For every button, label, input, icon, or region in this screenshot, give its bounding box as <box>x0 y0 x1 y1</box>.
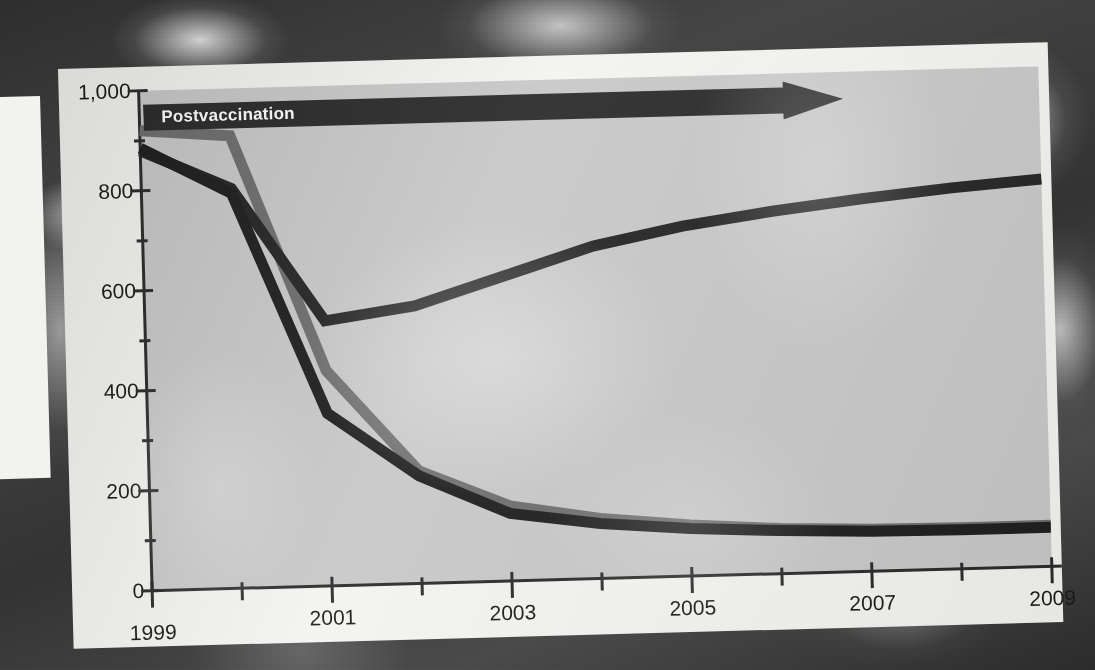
x-axis-tick-label: 2009 <box>1029 586 1076 611</box>
y-axis-major-tick <box>130 191 150 192</box>
x-axis-tick-label: 2007 <box>849 591 896 616</box>
x-axis-tick-label: 2001 <box>309 605 356 630</box>
postvaccination-label: Postvaccination <box>161 104 295 128</box>
series-group <box>140 106 1051 551</box>
x-axis-tick-label: 1999 <box>130 620 177 645</box>
series-line-series-declining-gray <box>140 106 1051 549</box>
x-axis-tick-label: 2003 <box>489 600 536 625</box>
y-axis-major-tick <box>136 390 156 391</box>
y-axis-major-tick <box>133 291 153 292</box>
y-axis-major-tick <box>128 91 148 92</box>
chart-figure: 02004006008001,000 Postvaccination 19992… <box>58 42 1063 649</box>
screenshot-stage: 02004006008001,000 Postvaccination 19992… <box>0 0 1095 670</box>
x-axis-tick-label: 2005 <box>669 595 716 620</box>
y-axis-major-tick <box>138 490 158 491</box>
